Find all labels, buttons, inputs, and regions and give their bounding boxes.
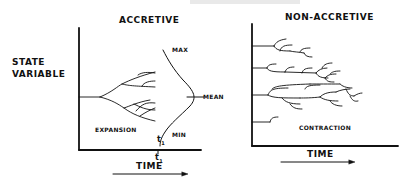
left-x-axis-label: TIME: [136, 162, 163, 171]
expansion-tree: [79, 72, 155, 121]
accretive-title: ACCRETIVE: [119, 16, 179, 25]
contraction-label: CONTRACTION: [299, 125, 351, 131]
mean-label: MEAN: [203, 94, 224, 100]
max-label: MAX: [172, 47, 188, 53]
left-time-arrow: [113, 172, 188, 176]
y-axis-label-state: STATE: [12, 58, 45, 67]
contraction-trees: [252, 39, 362, 122]
non-accretive-title: NON-ACCRETIVE: [285, 13, 374, 22]
diagram-graphics: [0, 0, 405, 184]
expansion-label: EXPANSION: [95, 127, 137, 133]
min-label: MIN: [172, 132, 186, 138]
y-axis-label-variable: VARIABLE: [12, 70, 65, 79]
t1-marker-inside: t1: [157, 136, 165, 146]
right-time-arrow: [281, 160, 355, 164]
right-x-axis-label: TIME: [307, 150, 334, 159]
